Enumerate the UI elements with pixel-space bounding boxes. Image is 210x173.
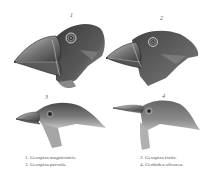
caption-species-1: 1. Geospiza magnirostris.	[25, 154, 76, 161]
finch-plate-illustration	[0, 0, 210, 173]
caption-species-2: 2. Geospiza fortis.	[140, 154, 184, 161]
finch-head-1	[14, 24, 105, 88]
caption-right: 2. Geospiza fortis. 4. Certhidea olivace…	[140, 154, 184, 168]
figure-number-1: 1	[70, 12, 73, 18]
finch-head-4	[113, 101, 200, 150]
finch-head-2	[106, 31, 198, 86]
caption-species-3: 3. Geospiza parvula.	[25, 161, 76, 168]
caption-species-4: 4. Certhidea olivacea.	[140, 161, 184, 168]
figure-number-2: 2	[160, 15, 163, 21]
figure-number-4: 4	[162, 93, 165, 99]
finch-head-3	[16, 103, 106, 148]
caption-left: 1. Geospiza magnirostris. 3. Geospiza pa…	[25, 154, 76, 168]
figure-number-3: 3	[45, 94, 48, 100]
